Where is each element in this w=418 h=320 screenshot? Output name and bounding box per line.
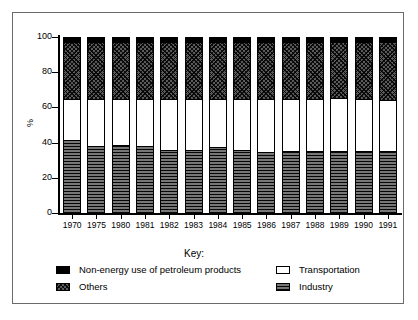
legend-label-transportation: Transportation <box>299 264 360 275</box>
bar-1984 <box>209 37 227 213</box>
bar-segment <box>356 100 372 152</box>
bar-segment <box>307 100 323 152</box>
bar-segment <box>380 43 396 101</box>
bar-segment <box>356 43 372 100</box>
x-axis-tick <box>218 215 219 219</box>
x-axis-tick <box>339 215 340 219</box>
y-axis-tick <box>52 143 58 144</box>
bar-segment <box>113 146 129 213</box>
bar-segment <box>234 37 250 43</box>
bar-1987 <box>282 37 300 213</box>
bar-1990 <box>355 37 373 213</box>
legend-swatch-industry-icon <box>276 283 290 291</box>
x-axis-tick <box>291 215 292 219</box>
bar-segment <box>88 147 104 213</box>
bar-1983 <box>185 37 203 213</box>
bar-segment <box>307 152 323 213</box>
bar-segment <box>88 43 104 100</box>
bar-segment <box>234 100 250 150</box>
x-axis-tick <box>266 215 267 219</box>
bar-segment <box>88 37 104 43</box>
y-axis-tick-label: 0 <box>18 208 52 217</box>
bar-segment <box>161 37 177 43</box>
bar-segment <box>64 100 80 140</box>
x-axis-line <box>58 213 402 215</box>
bar-segment <box>137 37 153 43</box>
bar-segment <box>283 37 299 43</box>
legend-item-transportation: Transportation <box>276 264 360 275</box>
bar-segment <box>161 151 177 213</box>
bar-segment <box>307 43 323 100</box>
bar-segment <box>137 100 153 147</box>
bar-segment <box>210 43 226 100</box>
legend-label-industry: Industry <box>299 281 333 292</box>
y-axis-tick <box>52 107 58 108</box>
bar-1989 <box>330 37 348 213</box>
bar-segment <box>186 151 202 213</box>
bar-segment <box>380 101 396 152</box>
legend-swatch-others-icon <box>56 283 70 291</box>
legend-swatch-transportation-icon <box>276 266 290 274</box>
x-axis-tick <box>145 215 146 219</box>
bar-segment <box>113 43 129 100</box>
bar-segment <box>307 37 323 43</box>
y-axis-tick-label: 20 <box>18 173 52 182</box>
bar-segment <box>210 148 226 213</box>
bar-1991 <box>379 37 397 213</box>
bar-segment <box>210 37 226 43</box>
x-axis-tick <box>194 215 195 219</box>
bar-1986 <box>257 37 275 213</box>
bar-segment <box>331 152 347 213</box>
bar-segment <box>258 43 274 100</box>
bar-segment <box>283 152 299 213</box>
y-axis-tick <box>52 72 58 73</box>
bar-segment <box>64 37 80 43</box>
bar-1970 <box>63 37 81 213</box>
x-axis-tick <box>388 215 389 219</box>
bar-segment <box>258 100 274 153</box>
y-axis-tick <box>52 213 58 214</box>
bar-segment <box>161 43 177 100</box>
bar-segment <box>234 43 250 100</box>
bar-segment <box>186 100 202 150</box>
bar-segment <box>113 37 129 43</box>
legend-item-others: Others <box>56 281 108 292</box>
x-axis-tick-label: 1991 <box>373 220 403 230</box>
bar-segment <box>137 147 153 213</box>
bar-segment <box>64 141 80 213</box>
x-axis-tick <box>364 215 365 219</box>
y-axis-tick <box>52 37 58 38</box>
x-axis-tick <box>315 215 316 219</box>
chart-legend: Key: Non-energy use of petroleum product… <box>24 248 394 300</box>
y-axis-tick-label: 100 <box>18 32 52 41</box>
y-axis-tick <box>52 178 58 179</box>
bar-1980 <box>112 37 130 213</box>
bar-1981 <box>136 37 154 213</box>
bar-segment <box>380 152 396 213</box>
y-axis-tick-label: 40 <box>18 138 52 147</box>
bar-segment <box>186 37 202 43</box>
bar-segment <box>356 152 372 213</box>
bar-segment <box>331 99 347 153</box>
legend-label-non-energy: Non-energy use of petroleum products <box>79 264 241 275</box>
legend-label-others: Others <box>79 281 108 292</box>
x-axis-tick <box>121 215 122 219</box>
bar-segment <box>283 100 299 152</box>
bar-segment <box>210 100 226 148</box>
bar-segment <box>258 37 274 43</box>
bar-segment <box>88 100 104 147</box>
bar-1975 <box>87 37 105 213</box>
bar-segment <box>64 43 80 100</box>
legend-swatch-non-energy-icon <box>56 266 70 274</box>
bar-segment <box>380 37 396 43</box>
bar-segment <box>234 151 250 213</box>
plot-area <box>60 37 400 213</box>
x-axis-tick <box>72 215 73 219</box>
x-axis-tick <box>169 215 170 219</box>
legend-item-non-energy: Non-energy use of petroleum products <box>56 264 241 275</box>
x-axis-tick <box>96 215 97 219</box>
y-axis-tick-label: 80 <box>18 67 52 76</box>
bar-segment <box>283 43 299 100</box>
y-axis-title: % <box>25 119 35 127</box>
y-axis-tick-label: 60 <box>18 102 52 111</box>
